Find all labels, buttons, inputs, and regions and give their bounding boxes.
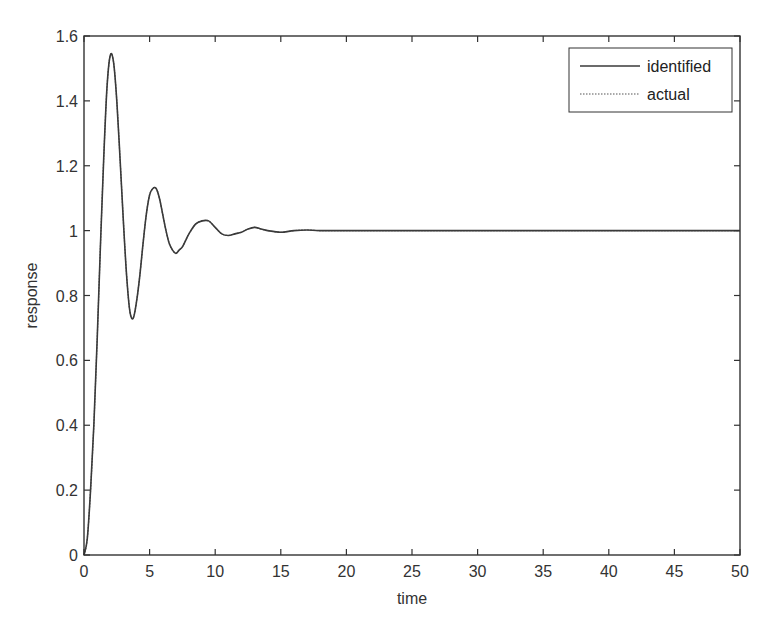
y-tick-label: 1.6 — [56, 28, 78, 45]
y-tick-label: 0.4 — [56, 417, 78, 434]
y-tick-label: 0 — [69, 547, 78, 564]
y-tick-label: 0.6 — [56, 352, 78, 369]
y-axis-label: response — [23, 262, 40, 328]
y-tick-label: 1 — [69, 223, 78, 240]
x-tick-label: 40 — [600, 563, 618, 580]
x-tick-label: 20 — [338, 563, 356, 580]
y-tick-label: 0.8 — [56, 288, 78, 305]
x-axis-label: time — [397, 590, 427, 607]
y-tick-label: 1.2 — [56, 158, 78, 175]
x-tick-label: 35 — [534, 563, 552, 580]
x-tick-label: 30 — [469, 563, 487, 580]
x-tick-label: 45 — [666, 563, 684, 580]
y-tick-label: 1.4 — [56, 93, 78, 110]
x-tick-label: 0 — [80, 563, 89, 580]
legend-label-identified: identified — [647, 58, 711, 75]
legend-label-actual: actual — [647, 86, 690, 103]
legend: identified actual — [569, 48, 732, 112]
x-tick-label: 50 — [731, 563, 749, 580]
x-tick-label: 25 — [403, 563, 421, 580]
y-tick-label: 0.2 — [56, 482, 78, 499]
x-tick-label: 15 — [272, 563, 290, 580]
x-tick-label: 5 — [145, 563, 154, 580]
chart: 05101520253035404550 00.20.40.60.811.21.… — [0, 0, 766, 626]
x-tick-label: 10 — [206, 563, 224, 580]
